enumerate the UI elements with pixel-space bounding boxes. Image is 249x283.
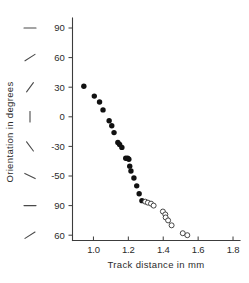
y-tick-label: -30 [51,141,64,152]
y-tick-label: 90 [54,22,64,33]
scatter-plot: 9060300-30-509060 1.01.21.41.61.8 Track … [0,0,249,283]
chart-figure: 9060300-30-509060 1.01.21.41.61.8 Track … [0,0,249,283]
data-point-filled [97,99,102,104]
data-point-open [151,203,156,208]
x-tick-label: 1.8 [227,244,240,255]
orientation-glyph-backslash-steep [27,142,34,151]
x-tick-label: 1.2 [122,244,135,255]
y-tick-label: 0 [59,111,64,122]
orientation-glyph-slash-steep [27,83,34,92]
data-point-open [166,218,171,223]
y-tick-label: 30 [54,82,64,93]
y-axis-labels: 9060300-30-509060 [51,22,64,240]
x-tick-label: 1.4 [157,244,170,255]
data-point-filled [109,123,114,128]
data-point-filled [134,183,139,188]
data-point-filled [81,84,86,89]
x-axis-ticks [93,237,233,241]
orientation-glyph-backslash-shallow [25,173,35,178]
data-point-filled [131,175,136,180]
data-points-open [143,199,190,238]
data-point-filled [106,118,111,123]
x-axis-labels: 1.01.21.41.61.8 [87,244,239,255]
y-tick-label: -50 [51,170,64,181]
data-point-filled [119,145,124,150]
data-point-filled [111,130,116,135]
data-point-filled [92,93,97,98]
orientation-glyph-slash-shallow [25,54,35,60]
data-points-filled [81,84,145,204]
y-tick-label: 60 [54,230,64,241]
orientation-glyph-slash-shallow [25,232,35,238]
data-point-filled [100,107,105,112]
x-axis-title: Track distance in mm [108,259,205,270]
y-tick-label: 60 [54,52,64,63]
data-point-open [185,233,190,238]
data-point-filled [127,163,132,168]
x-tick-label: 1.6 [192,244,205,255]
y-tick-label: 90 [54,200,64,211]
y-axis-glyphs [24,28,36,238]
data-point-filled [136,191,141,196]
y-axis-ticks [69,28,73,235]
data-point-filled [128,168,133,173]
data-point-filled [126,157,131,162]
x-tick-label: 1.0 [87,244,100,255]
data-point-open [169,223,174,228]
y-axis-title: Orientation in degrees [4,81,15,182]
